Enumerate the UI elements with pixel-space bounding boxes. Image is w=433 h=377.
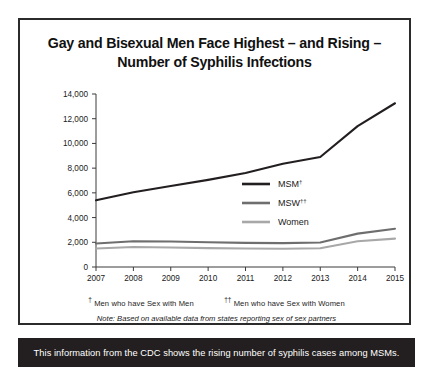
footnotes: † Men who have Sex with Men †† Men who h… xyxy=(20,296,413,323)
y-axis-tick-label: 6,000 xyxy=(68,189,89,198)
y-axis-tick-label: 2,000 xyxy=(68,238,89,247)
x-axis-tick-label: 2013 xyxy=(311,274,330,283)
y-axis-tick-label: 4,000 xyxy=(68,214,89,223)
y-axis-tick-label: 8,000 xyxy=(68,164,89,173)
x-axis-tick-label: 2007 xyxy=(87,274,106,283)
dagger-single-icon: † xyxy=(88,296,92,303)
footnote-msw-text: Men who have Sex with Women xyxy=(234,299,345,308)
infographic-container: Gay and Bisexual Men Face Highest – and … xyxy=(18,18,415,367)
footnote-msw: †† Men who have Sex with Women xyxy=(224,296,345,308)
series-line-msw xyxy=(96,229,395,244)
x-axis-tick-label: 2012 xyxy=(274,274,293,283)
line-chart: 02,0004,0006,0008,00010,00012,00014,0002… xyxy=(20,86,413,301)
x-axis-tick-label: 2009 xyxy=(162,274,181,283)
cdc-banner: This information from the CDC shows the … xyxy=(18,338,415,367)
chart-card: Gay and Bisexual Men Face Highest – and … xyxy=(18,18,411,325)
series-line-msm xyxy=(96,103,395,200)
y-axis-tick-label: 12,000 xyxy=(63,115,88,124)
chart-title: Gay and Bisexual Men Face Highest – and … xyxy=(40,34,389,71)
dagger-double-icon: †† xyxy=(224,296,231,303)
y-axis-tick-label: 0 xyxy=(83,263,88,272)
legend-label-msw: MSW†† xyxy=(278,198,307,208)
y-axis-tick-label: 10,000 xyxy=(63,139,88,148)
x-axis-tick-label: 2008 xyxy=(124,274,143,283)
x-axis-tick-label: 2014 xyxy=(349,274,368,283)
footnote-msm: † Men who have Sex with Men xyxy=(88,296,193,308)
footnote-note: Note: Based on available data from state… xyxy=(20,314,413,323)
legend-label-women: Women xyxy=(278,217,309,227)
y-axis-tick-label: 14,000 xyxy=(63,90,88,99)
legend-label-msm: MSM† xyxy=(278,179,302,189)
x-axis-tick-label: 2015 xyxy=(386,274,405,283)
footnote-msm-text: Men who have Sex with Men xyxy=(94,299,194,308)
x-axis-tick-label: 2010 xyxy=(199,274,218,283)
chart-plot-area: 02,0004,0006,0008,00010,00012,00014,0002… xyxy=(20,86,413,301)
x-axis-tick-label: 2011 xyxy=(237,274,255,283)
footnote-row: † Men who have Sex with Men †† Men who h… xyxy=(20,296,413,308)
cdc-banner-text: This information from the CDC shows the … xyxy=(34,348,400,358)
